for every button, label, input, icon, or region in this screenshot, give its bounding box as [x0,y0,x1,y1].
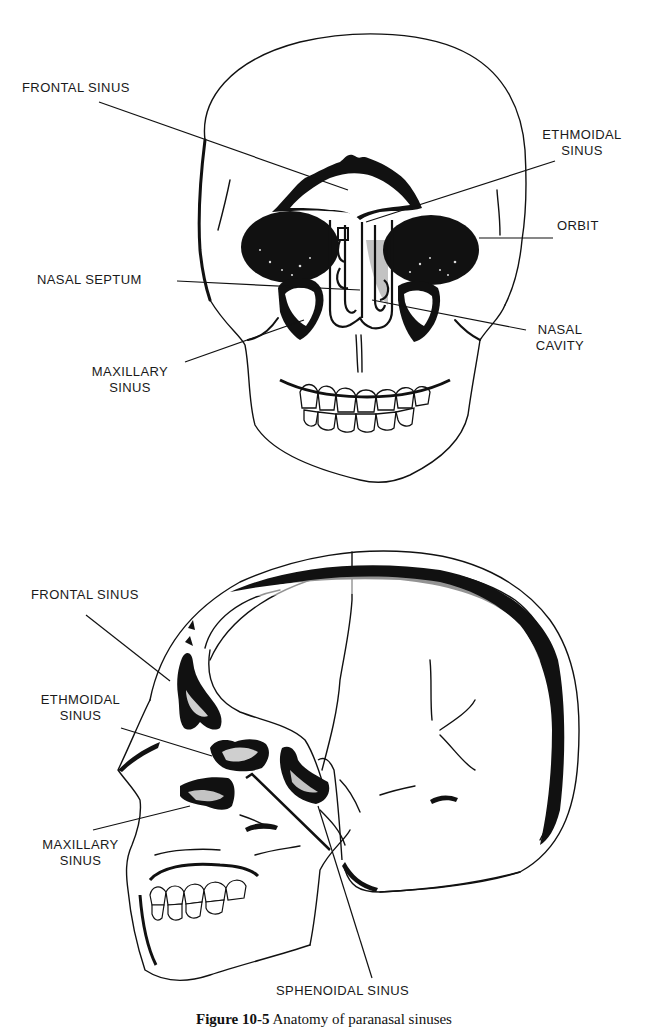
left-orbit [241,211,339,283]
right-orbit [383,215,479,285]
leader-frontal-sinus [99,102,348,190]
label-nasal-cavity: NASAL CAVITY [525,322,595,354]
leader-lateral-frontal-sinus [86,615,170,681]
label-maxillary-line1: MAXILLARY [75,364,185,380]
label-maxillary-line2: SINUS [75,380,185,396]
lateral-maxillary-sinus [180,777,235,810]
leader-maxillary-sinus [185,320,304,362]
label-ethmoidal-line2: SINUS [532,143,632,159]
leader-lateral-sphenoidal-sinus [318,806,372,978]
label-lateral-ethmoidal-line1: ETHMOIDAL [28,692,133,708]
label-frontal-sinus-front: FRONTAL SINUS [22,80,130,96]
label-ethmoidal-line1: ETHMOIDAL [532,127,632,143]
figure-caption: Figure 10-5 Anatomy of paranasal sinuses [0,1011,648,1028]
lateral-ethmoidal-sinus [210,739,269,771]
label-orbit: ORBIT [557,218,599,234]
label-nasal-cavity-line2: CAVITY [525,338,595,354]
label-frontal-sinus-lateral: FRONTAL SINUS [31,587,139,603]
label-lateral-maxillary-line2: SINUS [28,853,133,869]
leader-lateral-ethmoidal-sinus [121,728,212,756]
lateral-sphenoidal-sinus [280,747,329,804]
label-ethmoidal-sinus-front: ETHMOIDAL SINUS [532,127,632,159]
leader-lateral-maxillary-sinus [93,806,190,830]
label-lateral-ethmoidal-line2: SINUS [28,708,133,724]
label-maxillary-sinus-lateral: MAXILLARY SINUS [28,837,133,869]
leader-nasal-cavity [372,300,526,330]
label-ethmoidal-sinus-lateral: ETHMOIDAL SINUS [28,692,133,724]
label-nasal-septum: NASAL SEPTUM [37,272,142,288]
frontal-skull-drawing [0,0,648,500]
lateral-frontal-sinus [177,653,221,730]
label-lateral-maxillary-line1: MAXILLARY [28,837,133,853]
caption-text: Anatomy of paranasal sinuses [272,1011,452,1027]
label-nasal-cavity-line1: NASAL [525,322,595,338]
caption-number: Figure 10-5 [196,1011,269,1027]
label-sphenoidal-sinus: SPHENOIDAL SINUS [276,983,409,999]
label-maxillary-sinus-front: MAXILLARY SINUS [75,364,185,396]
